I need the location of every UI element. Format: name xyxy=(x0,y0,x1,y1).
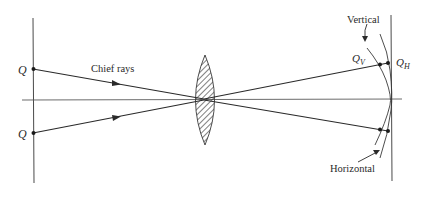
image-point-horizontal-bottom xyxy=(386,129,390,133)
object-point-bottom-label: Q xyxy=(18,127,27,141)
vertical-leader-arrow-icon xyxy=(362,36,368,42)
chief-ray-bottom-image-side xyxy=(204,100,388,131)
vertical-leader-line xyxy=(365,24,367,37)
chief-ray-top-image-side xyxy=(204,63,388,99)
horizontal-label: Horizontal xyxy=(330,163,375,174)
qh-letter: Q xyxy=(396,56,404,68)
chief-rays-label: Chief rays xyxy=(91,63,134,74)
qh-subscript: H xyxy=(403,62,411,71)
image-point-horizontal-top xyxy=(386,61,390,65)
qv-subscript: V xyxy=(360,58,366,67)
astigmatism-diagram: Q Q Chief rays Vertical Horizontal QV QH xyxy=(0,0,427,203)
image-point-vertical-bottom xyxy=(378,128,382,132)
ray-arrow-top-icon xyxy=(112,80,121,86)
vertical-label: Vertical xyxy=(347,14,380,25)
object-plane-line xyxy=(33,18,34,183)
image-point-vertical-top xyxy=(378,63,382,67)
object-point-top-label: Q xyxy=(18,63,27,77)
qv-letter: Q xyxy=(352,52,360,64)
image-point-horizontal-label: QH xyxy=(396,56,411,71)
horizontal-leader-line xyxy=(358,152,377,162)
image-point-vertical-label: QV xyxy=(352,52,366,67)
object-point-top xyxy=(32,67,36,71)
horizontal-leader-arrow-icon xyxy=(373,150,380,155)
object-point-bottom xyxy=(32,131,36,135)
